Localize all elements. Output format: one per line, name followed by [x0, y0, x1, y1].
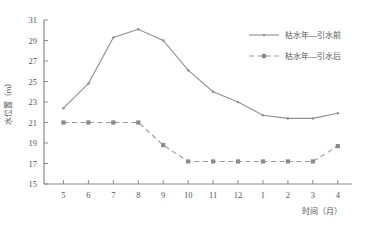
chart-legend: 枯水年—引水前枯水年—引水后 — [249, 30, 341, 61]
y-tick-label: 21 — [29, 118, 38, 128]
y-tick-label: 15 — [29, 179, 38, 189]
x-tick-label: 2 — [286, 190, 290, 200]
y-tick-label: 27 — [29, 56, 38, 66]
x-tick-label: 6 — [86, 190, 90, 200]
legend-label: 枯水年—引水前 — [285, 30, 341, 40]
data-point-marker — [62, 107, 65, 110]
series-line-2 — [63, 123, 337, 162]
line-chart: 151719212325272931 567891011121234 水位置（m… — [0, 0, 376, 229]
y-tick-label: 31 — [29, 15, 38, 25]
data-point-marker — [261, 159, 265, 163]
axis-tick-marks — [44, 20, 338, 184]
y-axis-tick-labels: 151719212325272931 — [29, 15, 38, 189]
plot-series-group — [61, 28, 340, 164]
data-point-marker — [287, 117, 290, 120]
data-point-marker — [236, 159, 240, 163]
x-tick-label: 5 — [61, 190, 65, 200]
y-tick-label: 23 — [29, 97, 38, 107]
data-point-marker — [311, 159, 315, 163]
y-tick-label: 17 — [29, 159, 38, 169]
chart-container: 151719212325272931 567891011121234 水位置（m… — [0, 0, 376, 229]
x-axis-title: 时间（月） — [302, 206, 342, 216]
x-tick-label: 10 — [184, 190, 193, 200]
x-tick-label: 1 — [261, 190, 265, 200]
legend-label: 枯水年—引水后 — [285, 51, 341, 61]
data-point-marker — [161, 143, 165, 147]
legend-marker — [263, 34, 266, 37]
data-point-marker — [111, 120, 115, 124]
y-tick-label: 25 — [29, 77, 38, 87]
data-point-marker — [337, 112, 340, 115]
data-point-marker — [162, 39, 165, 42]
data-point-marker — [86, 120, 90, 124]
data-point-marker — [312, 117, 315, 120]
data-point-marker — [262, 114, 265, 117]
data-point-marker — [336, 144, 340, 148]
x-tick-label: 3 — [311, 190, 315, 200]
x-axis-tick-labels: 567891011121234 — [61, 190, 340, 200]
data-point-marker — [186, 159, 190, 163]
data-point-marker — [137, 28, 140, 31]
x-tick-label: 11 — [209, 190, 217, 200]
data-point-marker — [136, 120, 140, 124]
data-point-marker — [286, 159, 290, 163]
data-point-marker — [112, 36, 115, 39]
y-axis-title: 水位置（m） — [3, 79, 13, 126]
x-tick-label: 12 — [234, 190, 243, 200]
data-point-marker — [187, 69, 190, 72]
legend-marker — [262, 54, 266, 58]
x-tick-label: 8 — [136, 190, 140, 200]
y-tick-label: 29 — [29, 36, 38, 46]
x-tick-label: 4 — [336, 190, 341, 200]
data-point-marker — [87, 82, 90, 85]
data-point-marker — [212, 91, 215, 94]
x-tick-label: 9 — [161, 190, 165, 200]
data-point-marker — [237, 101, 240, 104]
x-tick-label: 7 — [111, 190, 115, 200]
y-tick-label: 19 — [29, 138, 38, 148]
series-line-1 — [63, 29, 337, 118]
data-point-marker — [61, 120, 65, 124]
data-point-marker — [211, 159, 215, 163]
